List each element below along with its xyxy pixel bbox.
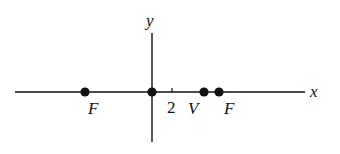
x-axis-label: x <box>309 82 318 101</box>
origin-point <box>147 87 156 96</box>
y-axis-label: y <box>144 11 154 30</box>
focus-left-label: F <box>87 99 99 118</box>
tick-label: 2 <box>167 98 176 117</box>
focus-right-label: F <box>223 99 235 118</box>
focus-left-point <box>80 87 89 96</box>
vertex-label: V <box>188 99 201 118</box>
coordinate-diagram: y x 2 F V F <box>0 0 340 154</box>
focus-right-point <box>214 87 223 96</box>
vertex-point <box>199 87 208 96</box>
